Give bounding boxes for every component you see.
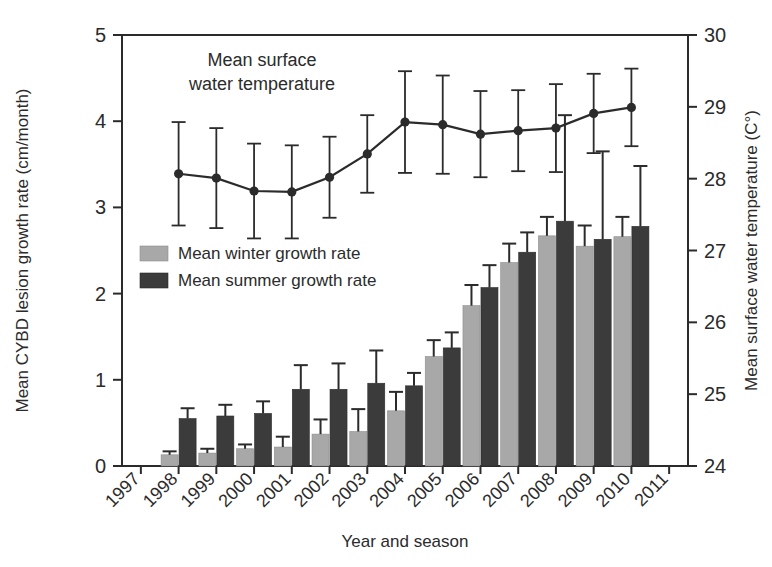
x-axis-tick-label: 2008 bbox=[516, 469, 558, 511]
chart-figure: 0123452425262728293019971998199920002001… bbox=[0, 0, 772, 567]
chart-canvas: 0123452425262728293019971998199920002001… bbox=[0, 0, 772, 567]
y2-axis-tick-label: 24 bbox=[704, 455, 726, 477]
x-axis-tick-label: 2010 bbox=[592, 469, 634, 511]
x-axis-tick-label: 2002 bbox=[290, 469, 332, 511]
temperature-marker bbox=[627, 103, 636, 112]
bar-summer bbox=[368, 383, 385, 466]
legend-swatch bbox=[140, 273, 168, 288]
y2-axis-tick-label: 29 bbox=[704, 96, 726, 118]
bar-summer bbox=[292, 389, 309, 466]
y-axis-tick-label: 5 bbox=[95, 24, 106, 46]
y2-axis-tick-label: 25 bbox=[704, 383, 726, 405]
bar-winter bbox=[501, 263, 518, 466]
bar-summer bbox=[632, 226, 649, 466]
bar-winter bbox=[199, 453, 216, 466]
temperature-marker bbox=[476, 130, 485, 139]
x-axis-tick-label: 1999 bbox=[177, 469, 219, 511]
bar-summer bbox=[179, 419, 196, 466]
bar-winter bbox=[161, 455, 178, 466]
bar-summer bbox=[406, 386, 423, 466]
annotation-line-2: water temperature bbox=[188, 74, 335, 94]
bar-winter bbox=[425, 357, 442, 466]
bar-winter bbox=[388, 411, 405, 466]
temperature-marker bbox=[325, 173, 334, 182]
temperature-marker bbox=[287, 187, 296, 196]
bar-summer bbox=[330, 389, 347, 466]
temperature-marker bbox=[174, 169, 183, 178]
temperature-marker bbox=[212, 173, 221, 182]
temperature-marker bbox=[438, 120, 447, 129]
y-axis-tick-label: 3 bbox=[95, 196, 106, 218]
temperature-marker bbox=[514, 126, 523, 135]
y-axis-title: Mean CYBD lesion growth rate (cm/month) bbox=[13, 88, 32, 412]
temperature-marker bbox=[551, 123, 560, 132]
x-axis-title: Year and season bbox=[342, 532, 469, 551]
bar-summer bbox=[556, 221, 573, 466]
bar-winter bbox=[274, 447, 291, 466]
bar-summer bbox=[217, 416, 234, 466]
temperature-marker bbox=[249, 186, 258, 195]
annotation-line-1: Mean surface bbox=[207, 50, 316, 70]
legend-label: Mean winter growth rate bbox=[178, 244, 360, 263]
x-axis-tick-label: 2003 bbox=[328, 469, 370, 511]
bar-winter bbox=[463, 306, 480, 466]
x-axis-tick-label: 2000 bbox=[214, 469, 256, 511]
bar-winter bbox=[538, 236, 555, 466]
x-axis-tick-label: 1998 bbox=[139, 469, 181, 511]
x-axis-tick-label: 2005 bbox=[403, 469, 445, 511]
x-axis-tick-label: 2007 bbox=[479, 469, 521, 511]
bar-winter bbox=[350, 432, 367, 466]
y-axis-tick-label: 1 bbox=[95, 369, 106, 391]
x-axis-tick-label: 2001 bbox=[252, 469, 294, 511]
legend-label: Mean summer growth rate bbox=[178, 271, 376, 290]
bar-winter bbox=[312, 434, 329, 466]
temperature-marker bbox=[363, 149, 372, 158]
bar-summer bbox=[481, 288, 498, 466]
temperature-marker bbox=[589, 109, 598, 118]
temperature-marker bbox=[400, 117, 409, 126]
bar-winter bbox=[576, 246, 593, 466]
y2-axis-tick-label: 27 bbox=[704, 240, 726, 262]
x-axis-tick-label: 2006 bbox=[441, 469, 483, 511]
y2-axis-title: Mean surface water temperature (C°) bbox=[742, 110, 761, 391]
y-axis-tick-label: 4 bbox=[95, 110, 106, 132]
y-axis-tick-label: 0 bbox=[95, 455, 106, 477]
bar-winter bbox=[614, 237, 631, 466]
y2-axis-tick-label: 30 bbox=[704, 24, 726, 46]
y2-axis-tick-label: 26 bbox=[704, 311, 726, 333]
y2-axis-tick-label: 28 bbox=[704, 168, 726, 190]
x-axis-tick-label: 2004 bbox=[365, 469, 407, 511]
bar-summer bbox=[594, 239, 611, 466]
bar-winter bbox=[237, 449, 254, 466]
x-axis-tick-label: 2009 bbox=[554, 469, 596, 511]
bar-summer bbox=[443, 348, 460, 466]
bar-summer bbox=[255, 413, 272, 466]
x-axis-tick-label: 2011 bbox=[630, 469, 672, 511]
bar-summer bbox=[519, 252, 536, 466]
legend-swatch bbox=[140, 246, 168, 261]
y-axis-tick-label: 2 bbox=[95, 283, 106, 305]
x-axis-tick-label: 1997 bbox=[101, 469, 143, 511]
